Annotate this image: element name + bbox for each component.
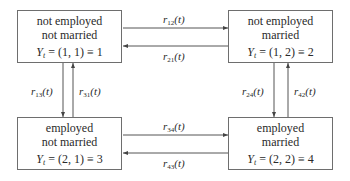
state-label-marital: not married: [18, 135, 121, 149]
state-box-1: not employed not married Yt = (1, 1) ≡ 1: [17, 10, 122, 63]
rate-label-34: r34(t): [163, 120, 185, 136]
rate-label-42: r42(t): [294, 85, 316, 101]
state-box-4: employed married Yt = (2, 2) ≡ 4: [228, 117, 333, 170]
rate-label-31: r31(t): [79, 85, 101, 101]
state-label-employment: not employed: [229, 14, 332, 28]
state-label-marital: not married: [18, 28, 121, 42]
state-box-3: employed not married Yt = (2, 1) ≡ 3: [17, 117, 122, 170]
rate-label-24: r24(t): [242, 85, 264, 101]
state-label-marital: married: [229, 135, 332, 149]
state-label-employment: employed: [18, 121, 121, 135]
state-definition: Yt = (1, 2) ≡ 2: [229, 45, 332, 63]
state-definition: Yt = (2, 2) ≡ 4: [229, 152, 332, 170]
rate-label-13: r13(t): [31, 85, 53, 101]
state-definition: Yt = (1, 1) ≡ 1: [18, 45, 121, 63]
rate-label-21: r21(t): [163, 50, 185, 66]
state-definition: Yt = (2, 1) ≡ 3: [18, 152, 121, 170]
rate-label-43: r43(t): [163, 157, 185, 173]
state-label-employment: not employed: [18, 14, 121, 28]
rate-label-12: r12(t): [163, 13, 185, 29]
state-box-2: not employed married Yt = (1, 2) ≡ 2: [228, 10, 333, 63]
state-label-marital: married: [229, 28, 332, 42]
state-label-employment: employed: [229, 121, 332, 135]
